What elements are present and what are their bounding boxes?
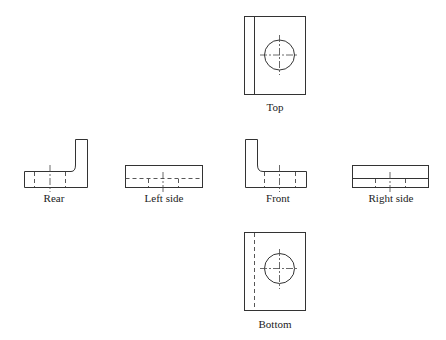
left-side-view: Left side	[126, 166, 203, 205]
rear-view-label: Rear	[44, 192, 65, 204]
front-view-label: Front	[266, 192, 290, 204]
front-view: Front	[246, 140, 307, 205]
left-side-view-label: Left side	[145, 192, 184, 204]
rear-view-outline	[25, 140, 88, 188]
orthographic-views-diagram: Top Rear Left side Front Right side	[0, 0, 446, 340]
top-view: Top	[245, 17, 306, 114]
bottom-view: Bottom	[245, 233, 306, 331]
right-side-view-outline	[353, 166, 429, 188]
front-view-outline	[246, 140, 307, 188]
right-side-view: Right side	[353, 166, 429, 205]
rear-view: Rear	[25, 140, 88, 205]
left-side-view-outline	[126, 166, 203, 188]
bottom-view-label: Bottom	[258, 318, 291, 330]
bottom-view-outline	[245, 233, 306, 311]
top-view-label: Top	[267, 101, 284, 113]
right-side-view-label: Right side	[369, 192, 414, 204]
top-view-outline	[245, 17, 306, 95]
